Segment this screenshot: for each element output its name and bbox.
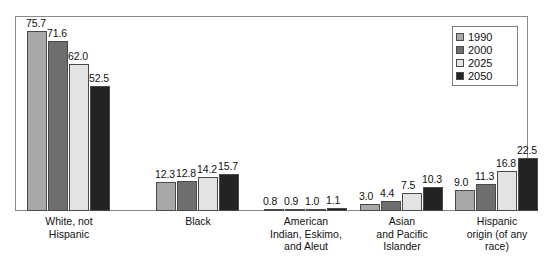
bar-value-label: 62.0: [68, 51, 88, 62]
category-label-line: Hispanic: [14, 228, 124, 241]
bar-group: 3.04.47.510.3: [360, 16, 444, 211]
bar[interactable]: [219, 174, 239, 211]
bar[interactable]: [90, 86, 110, 211]
bar-value-label: 1.1: [326, 195, 340, 206]
bar-value-label: 11.3: [475, 171, 494, 182]
legend-item[interactable]: 2025: [456, 56, 513, 69]
category-label-line: White, not: [14, 215, 124, 228]
legend-item[interactable]: 1990: [456, 30, 513, 43]
bar-value-label: 12.8: [176, 168, 196, 179]
category-label-line: Asian: [347, 215, 457, 228]
legend-swatch-icon: [456, 59, 464, 67]
bar[interactable]: [198, 177, 218, 211]
category-label-line: American: [251, 215, 361, 228]
bar[interactable]: [402, 193, 422, 211]
category-label: Hispanicorigin (of anyrace): [442, 215, 544, 253]
category-label-line: Indian, Eskimo,: [251, 228, 361, 241]
bar-value-label: 0.9: [284, 196, 298, 207]
category-label-line: Black: [143, 215, 253, 228]
bar-value-label: 9.0: [454, 177, 468, 188]
chart-legend: 1990200020252050: [452, 26, 518, 86]
legend-item[interactable]: 2000: [456, 43, 513, 56]
bar-value-label: 1.0: [305, 196, 319, 207]
bar[interactable]: [48, 41, 68, 211]
legend-swatch-icon: [456, 33, 464, 41]
category-label-line: Islander: [347, 240, 457, 253]
legend-item-label: 2000: [468, 44, 492, 56]
bar[interactable]: [177, 181, 197, 211]
legend-item[interactable]: 2050: [456, 69, 513, 82]
bar[interactable]: [306, 209, 326, 211]
bar[interactable]: [360, 204, 380, 211]
bar-value-label: 71.6: [47, 28, 67, 39]
category-label-line: and Pacific: [347, 228, 457, 241]
bar-value-label: 4.4: [380, 188, 394, 199]
category-label: Asianand PacificIslander: [347, 215, 457, 253]
category-label-line: race): [442, 240, 544, 253]
bar[interactable]: [285, 209, 305, 211]
bar-group: 12.312.814.215.7: [156, 16, 240, 211]
category-label: Black: [143, 215, 253, 228]
legend-swatch-icon: [456, 72, 464, 80]
legend-item-label: 2025: [468, 57, 492, 69]
bar-value-label: 16.8: [496, 158, 516, 169]
category-label: AmericanIndian, Eskimo,and Aleut: [251, 215, 361, 253]
bar[interactable]: [156, 182, 176, 211]
bar-value-label: 3.0: [359, 191, 373, 202]
category-label-line: Hispanic: [442, 215, 544, 228]
bar-value-label: 52.5: [89, 73, 109, 84]
category-label: White, notHispanic: [14, 215, 124, 240]
bar-value-label: 15.7: [218, 161, 238, 172]
legend-swatch-icon: [456, 46, 464, 54]
bar[interactable]: [327, 208, 347, 211]
bar[interactable]: [27, 31, 47, 211]
bar-group: 75.771.662.052.5: [27, 16, 111, 211]
bar[interactable]: [423, 187, 443, 211]
bar-value-label: 0.8: [263, 196, 277, 207]
bar[interactable]: [381, 201, 401, 211]
bar-value-label: 7.5: [401, 180, 415, 191]
bar[interactable]: [69, 64, 89, 211]
bar-group: 0.80.91.01.1: [264, 16, 348, 211]
legend-item-label: 1990: [468, 31, 492, 43]
bar-value-label: 14.2: [197, 164, 217, 175]
bar-value-label: 10.3: [422, 174, 442, 185]
bar-value-label: 22.5: [517, 145, 537, 156]
bar[interactable]: [497, 171, 517, 211]
bar-value-label: 12.3: [155, 169, 175, 180]
bar[interactable]: [264, 209, 284, 211]
legend-item-label: 2050: [468, 70, 492, 82]
bar[interactable]: [476, 184, 496, 211]
bar-chart: 75.771.662.052.512.312.814.215.70.80.91.…: [0, 0, 544, 265]
category-axis-labels: White, notHispanicBlackAmericanIndian, E…: [15, 215, 528, 261]
category-label-line: and Aleut: [251, 240, 361, 253]
bar-value-label: 75.7: [26, 18, 46, 29]
bar[interactable]: [455, 190, 475, 211]
bar[interactable]: [518, 158, 538, 212]
category-label-line: origin (of any: [442, 228, 544, 241]
